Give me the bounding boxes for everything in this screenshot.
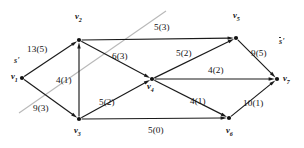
edge-label-v1-v2: 13(5): [27, 45, 47, 54]
node-label-v5: v5: [233, 11, 240, 22]
edge-v3-v6: [82, 118, 223, 119]
arrowhead-v3-v6: [221, 116, 227, 119]
arrowhead-v2-v4: [144, 74, 150, 78]
edge-label-v2-v4: 6(3): [112, 52, 128, 61]
cut-line-layer: [19, 11, 166, 113]
arrowhead-v4-v5: [228, 39, 234, 43]
edge-label-v3-v2: 4(1): [56, 76, 72, 85]
cut-sink-label: s': [279, 38, 284, 46]
edge-label-v2-v5: 5(3): [154, 23, 170, 32]
cut-line: [19, 11, 166, 113]
node-label-v4: v4: [147, 82, 154, 93]
node-label-v3: v3: [74, 126, 81, 137]
node-v3: [77, 117, 81, 121]
arrowhead-v4-v6: [221, 113, 227, 117]
edge-label-v5-v7: 9(5): [251, 49, 267, 58]
cut-source-label: s': [14, 57, 19, 65]
edge-label-v6-v7: 10(1): [243, 99, 263, 108]
edge-label-v4-v5: 5(2): [176, 49, 192, 58]
flow-network-figure: 13(5)9(3)4(1)5(3)6(3)5(2)5(0)5(2)4(2)4(1…: [0, 0, 304, 148]
edge-label-v3-v6: 5(0): [148, 126, 164, 135]
arrowhead-v3-v2: [77, 42, 80, 48]
edge-label-v4-v6: 4(1): [190, 97, 206, 106]
node-v5: [234, 36, 238, 40]
edge-v2-v5: [82, 38, 230, 40]
node-v1: [20, 76, 24, 80]
edge-label-v3-v4: 5(2): [99, 98, 115, 107]
node-label-v6: v6: [226, 126, 233, 137]
node-v2: [77, 38, 81, 42]
edge-label-v1-v3: 9(3): [33, 104, 49, 113]
arrowhead-v4-v7: [269, 77, 275, 80]
edge-label-v4-v7: 4(2): [208, 66, 224, 75]
node-label-v1: v1: [11, 72, 18, 83]
node-label-v2: v2: [75, 12, 82, 23]
node-v7: [275, 77, 279, 81]
edge-v4-v6: [154, 80, 223, 115]
node-label-v7: v7: [283, 74, 290, 85]
node-v6: [227, 116, 231, 120]
